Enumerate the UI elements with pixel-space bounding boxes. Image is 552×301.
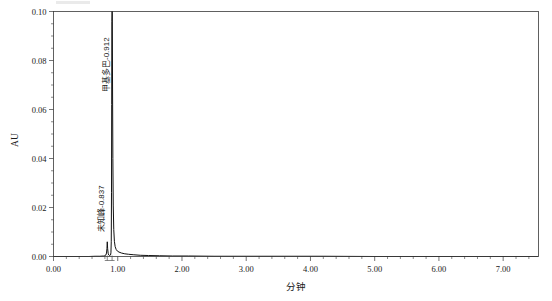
x-tick-label: 6.00 — [431, 264, 446, 274]
x-tick-label: 4.00 — [303, 264, 318, 274]
scan-artifact — [56, 1, 90, 4]
y-axis-title: AU — [10, 133, 20, 147]
chromatogram-plot: 0.001.002.003.004.005.006.007.00 0.000.0… — [0, 0, 552, 301]
x-tick-label: 0.00 — [46, 264, 61, 274]
x-tick-label: 1.00 — [110, 264, 125, 274]
y-tick-label: 0.00 — [32, 252, 47, 262]
y-tick-label: 0.06 — [32, 105, 47, 115]
y-tick-label: 0.08 — [32, 56, 47, 66]
x-tick-label: 7.00 — [496, 264, 511, 274]
x-tick-label: 5.00 — [367, 264, 382, 274]
y-tick-label: 0.10 — [32, 7, 47, 17]
peak-label-peak-unknown: 未知峰-0.837 — [96, 185, 106, 232]
x-axis-title: 分钟 — [286, 281, 306, 292]
peak-label-peak-methyldopa: 甲基多巴-0.912 — [101, 37, 111, 92]
x-tick-label: 3.00 — [239, 264, 254, 274]
y-tick-label: 0.02 — [32, 203, 47, 213]
y-tick-label: 0.04 — [32, 154, 48, 164]
x-tick-label: 2.00 — [175, 264, 190, 274]
